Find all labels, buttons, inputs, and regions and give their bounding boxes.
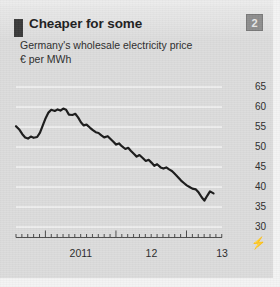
x-axis-tick-label: 13 bbox=[192, 247, 252, 259]
card-bottom-edge bbox=[0, 278, 280, 287]
chart-subtitle-units: € per MWh bbox=[20, 53, 71, 65]
y-axis-tick-label: 30 bbox=[244, 222, 266, 232]
y-axis-tick-label: 55 bbox=[244, 122, 266, 132]
card-top-edge bbox=[0, 0, 280, 5]
chart-card: Cheaper for some Germany's wholesale ele… bbox=[0, 0, 280, 287]
y-axis-tick-label: 50 bbox=[244, 142, 266, 152]
y-axis-tick-label: 60 bbox=[244, 102, 266, 112]
card-right-edge bbox=[273, 0, 280, 287]
y-axis-tick-label: 35 bbox=[244, 202, 266, 212]
page-title: Cheaper for some bbox=[29, 16, 142, 31]
axis-break-icon: ⚡ bbox=[244, 238, 266, 248]
y-axis-tick-label: 65 bbox=[244, 82, 266, 92]
chart-number-badge: 2 bbox=[246, 14, 263, 31]
x-axis-tick-label: 2011 bbox=[51, 247, 111, 259]
title-accent-bar bbox=[14, 19, 23, 37]
y-axis-tick-label: 40 bbox=[244, 182, 266, 192]
y-axis-tick-label: 45 bbox=[244, 162, 266, 172]
x-axis-tick-label: 12 bbox=[121, 247, 181, 259]
chart-subtitle-line1: Germany's wholesale electricity price bbox=[20, 39, 192, 51]
